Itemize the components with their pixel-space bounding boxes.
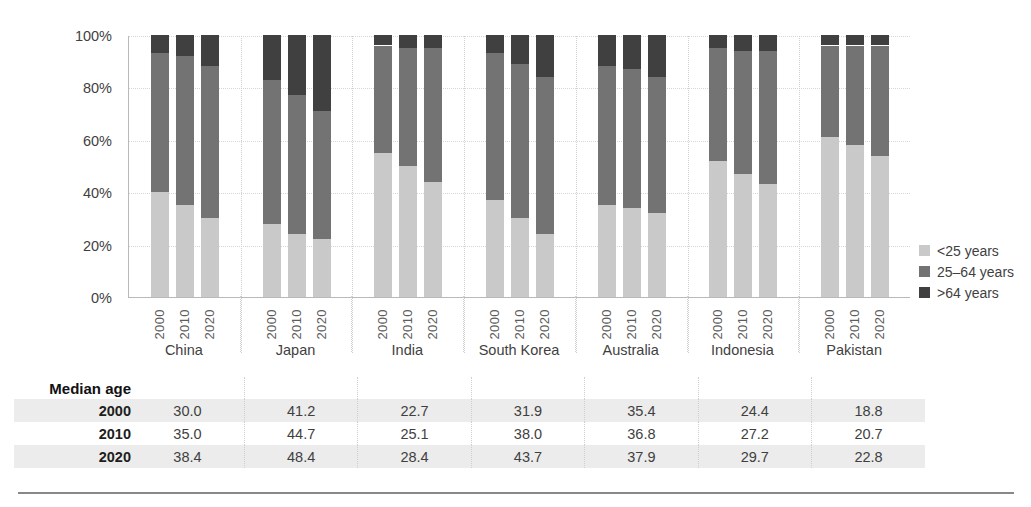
bar-segment-over64 [313,35,331,111]
x-axis-country-label-indonesia: Indonesia [711,342,774,358]
bar-segment-over64 [846,35,864,45]
bar-segment-age25to64 [734,51,752,174]
bar-australia-2000[interactable] [598,35,616,297]
table-cell: 36.8 [585,422,698,445]
table-row-label: 2000 [14,399,131,422]
legend-swatch-icon [919,245,930,256]
chart-legend: <25 years25–64 years>64 years [919,240,1029,303]
figure-root: 0%20%40%60%80%100% 200020102020China2000… [0,0,1031,507]
bar-segment-over64 [734,35,752,51]
bar-china-2020[interactable] [201,35,219,297]
bar-japan-2010[interactable] [288,35,306,297]
x-axis-separator-3 [463,296,464,352]
table-column-header [812,377,925,399]
legend-swatch-icon [919,287,930,298]
bar-segment-age25to64 [176,56,194,205]
bar-segment-under25 [486,200,504,297]
bar-segment-over64 [598,35,616,66]
bar-segment-over64 [424,35,442,48]
bar-segment-under25 [598,205,616,297]
x-axis-separator-4 [575,296,576,352]
x-axis-year-label: 2000 [599,309,614,340]
x-axis-year-label: 2020 [760,309,775,340]
bar-segment-under25 [313,239,331,297]
bar-segment-over64 [821,35,839,45]
bar-segment-under25 [201,218,219,297]
bar-south-korea-2020[interactable] [536,35,554,297]
bar-segment-over64 [263,35,281,80]
bar-indonesia-2020[interactable] [759,35,777,297]
bar-segment-age25to64 [846,46,864,146]
bar-south-korea-2010[interactable] [511,35,529,297]
legend-item-2[interactable]: >64 years [919,282,1029,303]
bar-china-2000[interactable] [151,35,169,297]
table-cell: 29.7 [698,445,811,468]
bar-australia-2010[interactable] [623,35,641,297]
table-column-header [585,377,698,399]
x-axis-country-label-china: China [165,342,203,358]
plot-area [128,36,910,298]
bar-australia-2020[interactable] [648,35,666,297]
bar-indonesia-2000[interactable] [709,35,727,297]
chart-area: 0%20%40%60%80%100% [60,36,910,306]
table-cell: 22.7 [358,399,471,422]
bar-segment-under25 [511,218,529,297]
bar-segment-under25 [536,234,554,297]
bar-segment-under25 [399,166,417,297]
x-axis-year-label: 2000 [264,309,279,340]
bar-japan-2000[interactable] [263,35,281,297]
bottom-divider-rule [18,492,1014,494]
bar-japan-2020[interactable] [313,35,331,297]
bar-indonesia-2010[interactable] [734,35,752,297]
bar-india-2010[interactable] [399,35,417,297]
x-axis-year-label: 2010 [512,309,527,340]
bar-china-2010[interactable] [176,35,194,297]
bar-pakistan-2000[interactable] [821,35,839,297]
bar-segment-over64 [486,35,504,53]
table-body: Median age200030.041.222.731.935.424.418… [14,377,925,468]
x-axis-country-label-south-korea: South Korea [479,342,560,358]
bar-segment-over64 [176,35,194,56]
table-cell: 44.7 [244,422,357,445]
bar-segment-age25to64 [399,48,417,166]
bar-segment-under25 [734,174,752,297]
table-cell: 38.0 [471,422,584,445]
table-cell: 30.0 [131,399,244,422]
bar-segment-over64 [399,35,417,48]
x-axis-country-label-pakistan: Pakistan [826,342,882,358]
bar-pakistan-2010[interactable] [846,35,864,297]
y-axis: 0%20%40%60%80%100% [60,36,118,298]
table-cell: 20.7 [812,422,925,445]
table-cell: 27.2 [698,422,811,445]
bar-segment-age25to64 [871,46,889,156]
table-cell: 41.2 [244,399,357,422]
x-axis-year-label: 2020 [649,309,664,340]
x-axis-separator-2 [351,296,352,352]
table-corner-label: Median age [14,377,131,399]
bar-segment-age25to64 [374,46,392,153]
bar-india-2000[interactable] [374,35,392,297]
legend-item-1[interactable]: 25–64 years [919,261,1029,282]
bar-pakistan-2020[interactable] [871,35,889,297]
bar-segment-over64 [759,35,777,51]
table-column-header [698,377,811,399]
x-axis-year-label: 2000 [152,309,167,340]
x-axis-separator-6 [798,296,799,352]
x-axis-year-label: 2000 [822,309,837,340]
legend-item-0[interactable]: <25 years [919,240,1029,261]
x-axis-separator-5 [687,296,688,352]
legend-label: >64 years [937,285,999,301]
bar-segment-age25to64 [201,66,219,218]
y-axis-tick-40: 40% [83,185,112,201]
bar-segment-under25 [709,161,727,297]
bar-south-korea-2000[interactable] [486,35,504,297]
bar-segment-over64 [709,35,727,48]
x-axis-year-label: 2000 [710,309,725,340]
bar-segment-age25to64 [536,77,554,234]
bar-india-2020[interactable] [424,35,442,297]
bar-segment-age25to64 [263,80,281,224]
bar-segment-under25 [151,192,169,297]
bar-segment-under25 [288,234,306,297]
bar-segment-over64 [536,35,554,77]
x-axis-year-label: 2010 [289,309,304,340]
